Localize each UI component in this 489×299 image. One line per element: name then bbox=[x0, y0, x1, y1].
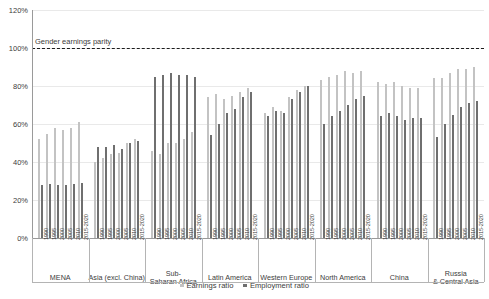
bar-employment-ratio[interactable] bbox=[242, 97, 244, 238]
bar-slot[interactable] bbox=[191, 10, 196, 238]
bar-earnings-ratio[interactable] bbox=[417, 88, 419, 238]
bar-earnings-ratio[interactable] bbox=[38, 139, 40, 238]
bar-earnings-ratio[interactable] bbox=[159, 154, 161, 238]
bar-earnings-ratio[interactable] bbox=[134, 139, 136, 238]
bar-employment-ratio[interactable] bbox=[186, 75, 188, 238]
bar-earnings-ratio[interactable] bbox=[175, 143, 177, 238]
bar-employment-ratio[interactable] bbox=[97, 147, 99, 238]
bar-slot[interactable] bbox=[441, 10, 446, 238]
bar-earnings-ratio[interactable] bbox=[272, 107, 274, 238]
bar-earnings-ratio[interactable] bbox=[126, 143, 128, 238]
bar-slot[interactable] bbox=[183, 10, 188, 238]
bar-employment-ratio[interactable] bbox=[347, 105, 349, 238]
bar-employment-ratio[interactable] bbox=[460, 107, 462, 238]
bar-earnings-ratio[interactable] bbox=[473, 67, 475, 238]
bar-earnings-ratio[interactable] bbox=[151, 151, 153, 238]
bar-employment-ratio[interactable] bbox=[170, 73, 172, 238]
bar-employment-ratio[interactable] bbox=[331, 116, 333, 238]
bar-earnings-ratio[interactable] bbox=[385, 84, 387, 238]
bar-earnings-ratio[interactable] bbox=[409, 88, 411, 238]
bar-employment-ratio[interactable] bbox=[323, 124, 325, 238]
bar-slot[interactable] bbox=[473, 10, 478, 238]
bar-earnings-ratio[interactable] bbox=[457, 69, 459, 238]
bar-slot[interactable] bbox=[449, 10, 454, 238]
bar-slot[interactable] bbox=[304, 10, 309, 238]
bar-employment-ratio[interactable] bbox=[121, 149, 123, 238]
bar-earnings-ratio[interactable] bbox=[102, 158, 104, 238]
bar-slot[interactable] bbox=[433, 10, 438, 238]
bar-slot[interactable] bbox=[344, 10, 349, 238]
bar-slot[interactable] bbox=[247, 10, 252, 238]
bar-slot[interactable] bbox=[151, 10, 156, 238]
bar-employment-ratio[interactable] bbox=[267, 116, 269, 238]
bar-earnings-ratio[interactable] bbox=[280, 111, 282, 238]
bar-employment-ratio[interactable] bbox=[380, 116, 382, 238]
bar-earnings-ratio[interactable] bbox=[167, 143, 169, 238]
bar-earnings-ratio[interactable] bbox=[288, 97, 290, 238]
bar-earnings-ratio[interactable] bbox=[94, 162, 96, 238]
bar-slot[interactable] bbox=[272, 10, 277, 238]
bar-employment-ratio[interactable] bbox=[154, 77, 156, 239]
bar-earnings-ratio[interactable] bbox=[377, 82, 379, 238]
bar-earnings-ratio[interactable] bbox=[118, 153, 120, 239]
bar-earnings-ratio[interactable] bbox=[231, 96, 233, 239]
bar-slot[interactable] bbox=[328, 10, 333, 238]
bar-slot[interactable] bbox=[167, 10, 172, 238]
bar-slot[interactable] bbox=[385, 10, 390, 238]
bar-earnings-ratio[interactable] bbox=[183, 139, 185, 238]
bar-employment-ratio[interactable] bbox=[218, 124, 220, 238]
bar-employment-ratio[interactable] bbox=[162, 75, 164, 238]
bar-earnings-ratio[interactable] bbox=[62, 130, 64, 238]
bar-earnings-ratio[interactable] bbox=[401, 86, 403, 238]
bar-earnings-ratio[interactable] bbox=[352, 73, 354, 238]
bar-slot[interactable] bbox=[223, 10, 228, 238]
bar-slot[interactable] bbox=[360, 10, 365, 238]
bar-employment-ratio[interactable] bbox=[299, 92, 301, 238]
bar-earnings-ratio[interactable] bbox=[239, 92, 241, 238]
bar-employment-ratio[interactable] bbox=[355, 99, 357, 238]
bar-slot[interactable] bbox=[175, 10, 180, 238]
bar-earnings-ratio[interactable] bbox=[78, 122, 80, 238]
bar-slot[interactable] bbox=[231, 10, 236, 238]
bar-employment-ratio[interactable] bbox=[105, 147, 107, 238]
bar-earnings-ratio[interactable] bbox=[264, 113, 266, 238]
bar-employment-ratio[interactable] bbox=[226, 113, 228, 238]
bar-employment-ratio[interactable] bbox=[234, 109, 236, 238]
bar-employment-ratio[interactable] bbox=[113, 145, 115, 238]
bar-slot[interactable] bbox=[207, 10, 212, 238]
bar-slot[interactable] bbox=[159, 10, 164, 238]
bar-earnings-ratio[interactable] bbox=[433, 78, 435, 238]
bar-slot[interactable] bbox=[336, 10, 341, 238]
bar-slot[interactable] bbox=[377, 10, 382, 238]
bar-employment-ratio[interactable] bbox=[412, 118, 414, 238]
bar-employment-ratio[interactable] bbox=[388, 113, 390, 238]
bar-slot[interactable] bbox=[320, 10, 325, 238]
bar-employment-ratio[interactable] bbox=[444, 124, 446, 238]
bar-employment-ratio[interactable] bbox=[452, 115, 454, 239]
bar-earnings-ratio[interactable] bbox=[207, 97, 209, 238]
bar-employment-ratio[interactable] bbox=[339, 111, 341, 238]
bar-earnings-ratio[interactable] bbox=[223, 99, 225, 238]
bar-slot[interactable] bbox=[134, 10, 139, 238]
bar-slot[interactable] bbox=[457, 10, 462, 238]
bar-earnings-ratio[interactable] bbox=[336, 75, 338, 238]
bar-employment-ratio[interactable] bbox=[283, 113, 285, 238]
bar-earnings-ratio[interactable] bbox=[296, 90, 298, 238]
bar-employment-ratio[interactable] bbox=[291, 99, 293, 238]
bar-slot[interactable] bbox=[296, 10, 301, 238]
bar-earnings-ratio[interactable] bbox=[320, 80, 322, 238]
bar-slot[interactable] bbox=[126, 10, 131, 238]
bar-employment-ratio[interactable] bbox=[129, 143, 131, 238]
bar-slot[interactable] bbox=[288, 10, 293, 238]
bar-earnings-ratio[interactable] bbox=[304, 86, 306, 238]
bar-earnings-ratio[interactable] bbox=[247, 88, 249, 238]
bar-earnings-ratio[interactable] bbox=[215, 94, 217, 238]
bar-slot[interactable] bbox=[401, 10, 406, 238]
bar-employment-ratio[interactable] bbox=[436, 137, 438, 238]
bar-earnings-ratio[interactable] bbox=[393, 82, 395, 238]
bar-earnings-ratio[interactable] bbox=[70, 128, 72, 238]
bar-earnings-ratio[interactable] bbox=[344, 71, 346, 238]
bar-employment-ratio[interactable] bbox=[210, 135, 212, 238]
bar-slot[interactable] bbox=[417, 10, 422, 238]
bar-employment-ratio[interactable] bbox=[178, 75, 180, 238]
